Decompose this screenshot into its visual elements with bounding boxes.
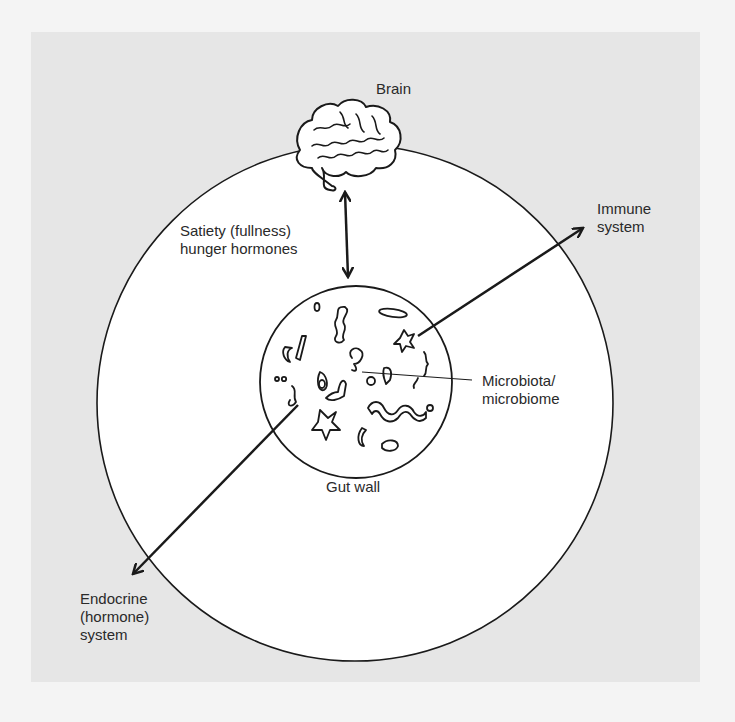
- brain-label: Brain: [376, 80, 411, 98]
- gut-wall-circle: [260, 286, 452, 478]
- immune-system-label: Immune system: [597, 200, 651, 236]
- gut-wall-label: Gut wall: [326, 478, 380, 496]
- endocrine-system-label: Endocrine (hormone) system: [80, 590, 149, 644]
- microbiota-microbiome-label: Microbiota/ microbiome: [482, 372, 560, 408]
- satiety-hunger-hormones-label: Satiety (fullness) hunger hormones: [180, 222, 298, 258]
